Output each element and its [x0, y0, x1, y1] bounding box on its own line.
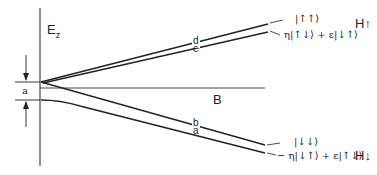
leader-upper-top: [270, 20, 283, 23]
arrow-up-icon: [23, 101, 29, 109]
leader-lower-top: [267, 143, 280, 145]
state-lower-mixed: − η|↓↑⟩ + ε|↑↓⟩: [277, 151, 363, 161]
gap-label: a: [22, 86, 28, 96]
state-lower-top: |↓↓⟩: [294, 137, 318, 147]
arrow-down-icon: [23, 73, 29, 81]
group-label-lower: H↓: [355, 149, 371, 162]
state-upper-mixed: η|↑↓⟩ + ε|↓↑⟩: [284, 30, 358, 40]
group-label-upper: H↑: [355, 17, 371, 30]
level-d: [41, 24, 268, 82]
state-upper-top: |↑↑⟩: [295, 14, 319, 24]
leader-upper-mixed: [270, 31, 280, 35]
level-label-c: c: [193, 44, 198, 54]
level-label-a: a: [193, 126, 199, 136]
energy-axis-label: Ez: [47, 23, 60, 40]
level-b: [41, 82, 265, 145]
field-axis-label: B: [213, 93, 222, 106]
level-a: [41, 100, 265, 153]
leader-lower-mixed: [267, 153, 276, 155]
level-c: [43, 32, 268, 83]
